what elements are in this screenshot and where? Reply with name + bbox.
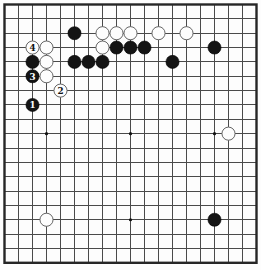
go-diagram: 4321: [0, 0, 261, 270]
star-point: [45, 132, 48, 135]
black-stone: [82, 55, 95, 68]
stone-move-number: 1: [29, 100, 35, 110]
white-stone: [40, 213, 53, 226]
white-stone: [40, 70, 53, 83]
black-stone: [208, 41, 221, 54]
black-stone: [96, 55, 109, 68]
white-stone: [222, 127, 235, 140]
black-stone: [68, 27, 81, 40]
white-stone: [40, 55, 53, 68]
white-stone: [96, 41, 109, 54]
go-board[interactable]: 4321: [0, 0, 261, 270]
white-stone: [180, 27, 193, 40]
white-stone: [124, 27, 137, 40]
black-stone: [138, 41, 151, 54]
white-stone: [152, 27, 165, 40]
black-stone: [110, 41, 123, 54]
black-stone: [166, 55, 179, 68]
black-stone: [124, 41, 137, 54]
black-stone: [26, 55, 39, 68]
stone-move-number: 3: [29, 72, 35, 82]
star-point: [129, 218, 132, 221]
stone-move-number: 2: [57, 86, 63, 96]
star-point: [213, 132, 216, 135]
stone-move-number: 4: [29, 43, 35, 53]
white-stone: [96, 27, 109, 40]
star-point: [129, 132, 132, 135]
black-stone: [68, 55, 81, 68]
white-stone: [40, 41, 53, 54]
black-stone: [208, 213, 221, 226]
white-stone: [110, 27, 123, 40]
